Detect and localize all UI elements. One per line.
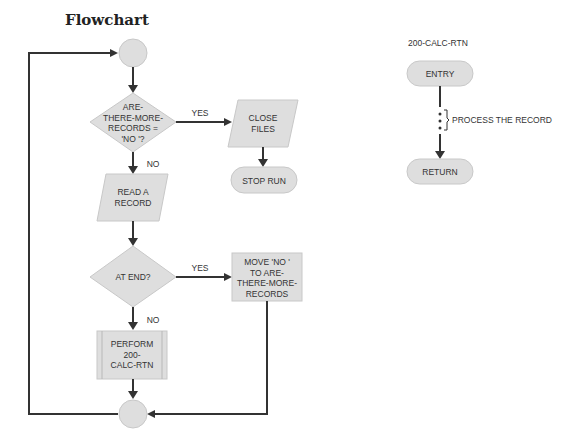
entry-label: ENTRY xyxy=(407,69,473,80)
perform-label: PERFORM 200- CALC-RTN xyxy=(97,339,167,371)
arrow-head xyxy=(147,410,155,418)
arrow-head xyxy=(128,238,138,246)
arrow-head xyxy=(128,85,138,93)
ellipsis-dot xyxy=(439,120,442,123)
arrow-head xyxy=(128,166,138,174)
return-label: RETURN xyxy=(407,167,473,178)
decision-more-records-label: ARE- THERE-MORE- RECORDS = 'NO '? xyxy=(93,102,173,144)
arrow-head xyxy=(224,118,232,126)
ellipsis-dot xyxy=(439,127,442,130)
arrow-head xyxy=(258,159,268,167)
no-label: NO xyxy=(143,315,163,326)
decision-at-end-label: AT END? xyxy=(95,272,171,283)
stop-run-label: STOP RUN xyxy=(231,176,297,187)
move-no-label: MOVE 'NO ' TO ARE- THERE-MORE- RECORDS xyxy=(232,257,302,299)
read-record-label: READ A RECORD xyxy=(102,187,164,208)
arrow-head xyxy=(128,391,138,399)
start-connector xyxy=(119,39,147,67)
brace-icon xyxy=(444,110,449,130)
end-connector xyxy=(119,400,147,428)
process-note: PROCESS THE RECORD xyxy=(452,115,572,126)
yes-label: YES xyxy=(188,263,212,274)
ellipsis-dot xyxy=(439,113,442,116)
yes-label: YES xyxy=(188,108,212,119)
flowchart-diagram xyxy=(0,0,572,445)
connector-line xyxy=(154,301,267,414)
no-label: NO xyxy=(143,159,163,170)
close-files-label: CLOSE FILES xyxy=(233,113,293,134)
subroutine-name: 200-CALC-RTN xyxy=(408,38,508,49)
arrow-head xyxy=(224,273,232,281)
arrow-head xyxy=(435,151,445,159)
arrow-head xyxy=(128,322,138,330)
arrow-head xyxy=(110,49,118,57)
